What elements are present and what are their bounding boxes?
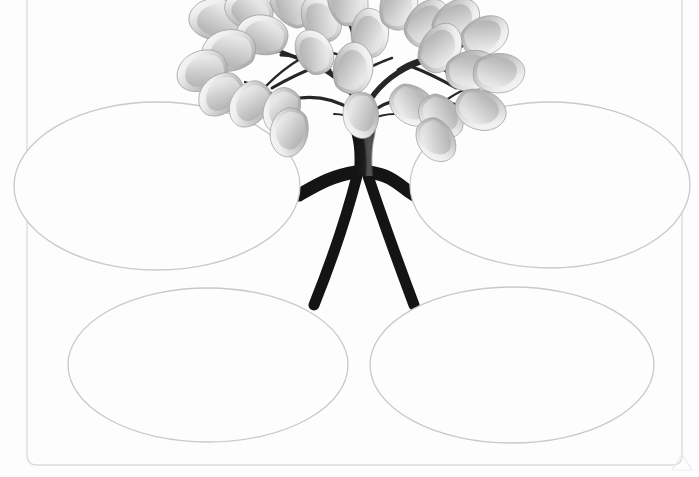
oval-bottom-left[interactable] <box>68 288 348 442</box>
oval-group <box>14 102 690 443</box>
oval-top-left[interactable] <box>14 102 300 270</box>
oval-bottom-right[interactable] <box>370 287 654 443</box>
worksheet-page <box>0 0 699 477</box>
tree-roots <box>299 172 414 305</box>
worksheet-canvas <box>0 0 699 477</box>
